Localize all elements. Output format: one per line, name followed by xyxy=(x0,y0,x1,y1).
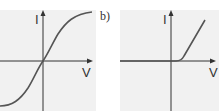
panel-b-label: b) xyxy=(100,10,110,22)
panel-a-iv-graph: I V xyxy=(0,10,96,111)
iv-curve-sigmoid xyxy=(0,12,92,106)
cropped-text-line xyxy=(20,0,80,2)
panel-a-plot xyxy=(0,10,96,111)
x-axis-label: V xyxy=(82,66,91,79)
y-axis-arrow-icon xyxy=(41,10,46,16)
panel-b-iv-graph: I V xyxy=(120,10,219,111)
y-axis-label: I xyxy=(35,13,39,26)
panel-b-plot xyxy=(120,10,219,111)
y-axis-label: I xyxy=(163,13,167,26)
y-axis-arrow-icon xyxy=(169,10,174,16)
x-axis-label: V xyxy=(209,66,218,79)
x-axis-arrow-icon xyxy=(87,59,93,64)
x-axis-arrow-icon xyxy=(210,59,216,64)
